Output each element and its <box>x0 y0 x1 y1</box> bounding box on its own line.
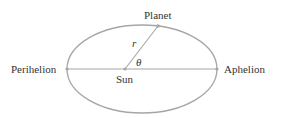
radius-label: r <box>132 37 137 49</box>
sun-label: Sun <box>116 73 134 85</box>
aphelion-point <box>215 67 218 70</box>
orbit-diagram: Planet Sun Perihelion Aphelion r θ <box>0 0 282 118</box>
planet-point <box>156 24 160 28</box>
radius-line <box>125 26 158 69</box>
planet-label: Planet <box>144 9 172 21</box>
perihelion-point <box>65 67 68 70</box>
angle-label: θ <box>136 56 142 68</box>
aphelion-label: Aphelion <box>224 63 265 75</box>
perihelion-label: Perihelion <box>11 63 57 75</box>
sun-point <box>123 67 126 70</box>
